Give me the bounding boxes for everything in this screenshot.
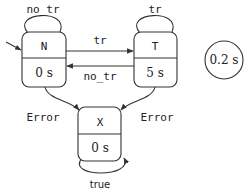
label-tr: tr [93,34,107,47]
state-X-duration: 0 s [91,141,109,155]
label-error-right: Error [140,111,173,124]
arrow-N-to-X [45,87,79,110]
period-circle: 0.2 s [205,41,243,79]
state-N: N 0 s [22,32,66,87]
label-no-tr: no_tr [83,70,116,83]
state-T-name: T [152,40,159,53]
state-T-duration: 5 s [146,66,164,80]
self-loop-T [137,16,174,33]
label-tr-loop: tr [148,3,162,16]
initial-arrow [6,42,21,50]
label-no-tr-loop: no_tr [26,3,59,16]
state-T: T 5 s [134,32,177,87]
state-N-name: N [41,40,48,53]
label-true: true [90,179,111,190]
state-N-duration: 0 s [35,66,53,80]
label-error-left: Error [26,111,59,124]
state-X-name: X [97,116,104,129]
period-label: 0.2 s [209,53,238,67]
state-X: X 0 s [78,107,121,161]
self-loop-N [25,16,62,33]
state-diagram: no_tr tr tr no_tr Error Error true N 0 s… [0,0,251,191]
arrow-T-to-X [121,87,155,110]
